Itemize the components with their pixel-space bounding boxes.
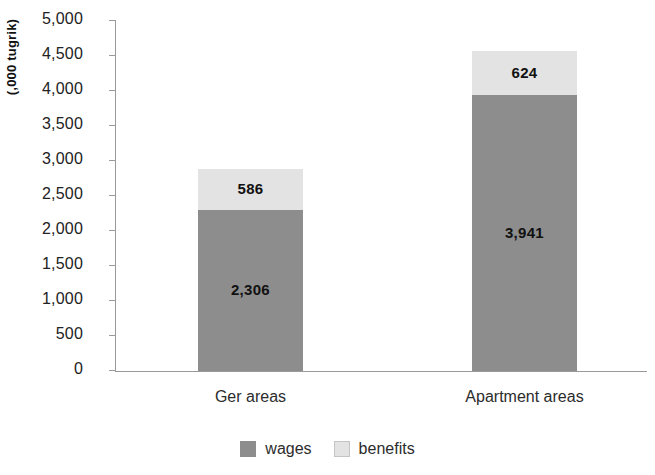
- y-tick-label: 3,500: [42, 115, 83, 133]
- y-tick-mark: [109, 195, 116, 196]
- y-tick-label: 4,000: [42, 80, 83, 98]
- y-axis-line: [115, 21, 116, 372]
- bar-segment-benefits[interactable]: 586: [198, 169, 303, 210]
- bar-segment-wages[interactable]: 3,941: [472, 95, 577, 371]
- chart-legend: wagesbenefits: [0, 440, 655, 458]
- y-tick-mark: [109, 265, 116, 266]
- bar-segment-wages[interactable]: 2,306: [198, 210, 303, 371]
- legend-label-benefits: benefits: [359, 440, 415, 458]
- y-tick-label: 2,000: [42, 220, 83, 238]
- bar-stack[interactable]: 5862,306: [198, 169, 303, 371]
- y-tick-mark: [109, 160, 116, 161]
- legend-label-wages: wages: [265, 440, 311, 458]
- bar-value-label-benefits: 624: [472, 64, 577, 81]
- bar-segment-benefits[interactable]: 624: [472, 51, 577, 95]
- y-tick-label: 1,500: [42, 255, 83, 273]
- y-tick-mark: [109, 125, 116, 126]
- y-tick-mark: [109, 300, 116, 301]
- y-tick-label: 5,000: [42, 10, 83, 28]
- y-tick-mark: [109, 20, 116, 21]
- y-tick-label: 0: [74, 360, 83, 378]
- bar-stack[interactable]: 6243,941: [472, 51, 577, 371]
- bar-value-label-wages: 2,306: [198, 281, 303, 298]
- bar-value-label-benefits: 586: [198, 180, 303, 197]
- y-tick-mark: [109, 230, 116, 231]
- stacked-bar-chart: (,000 tugrik) 5,0004,5004,0003,5003,0002…: [0, 0, 655, 475]
- y-tick-mark: [109, 55, 116, 56]
- y-tick-label: 4,500: [42, 45, 83, 63]
- bar-value-label-wages: 3,941: [472, 224, 577, 241]
- x-axis-label-apartment-areas: Apartment areas: [432, 388, 617, 406]
- y-tick-label: 1,000: [42, 290, 83, 308]
- y-tick-mark: [109, 370, 116, 371]
- legend-item-benefits[interactable]: benefits: [334, 440, 415, 458]
- y-axis-title: (,000 tugrik): [4, 0, 26, 132]
- legend-swatch-benefits: [334, 441, 350, 457]
- y-tick-label: 2,500: [42, 185, 83, 203]
- y-tick-mark: [109, 335, 116, 336]
- y-tick-label: 500: [56, 325, 83, 343]
- y-tick-label: 3,000: [42, 150, 83, 168]
- x-axis-label-ger-areas: Ger areas: [158, 388, 343, 406]
- y-tick-mark: [109, 90, 116, 91]
- legend-swatch-wages: [240, 441, 256, 457]
- legend-item-wages[interactable]: wages: [240, 440, 311, 458]
- x-axis-line: [115, 371, 647, 372]
